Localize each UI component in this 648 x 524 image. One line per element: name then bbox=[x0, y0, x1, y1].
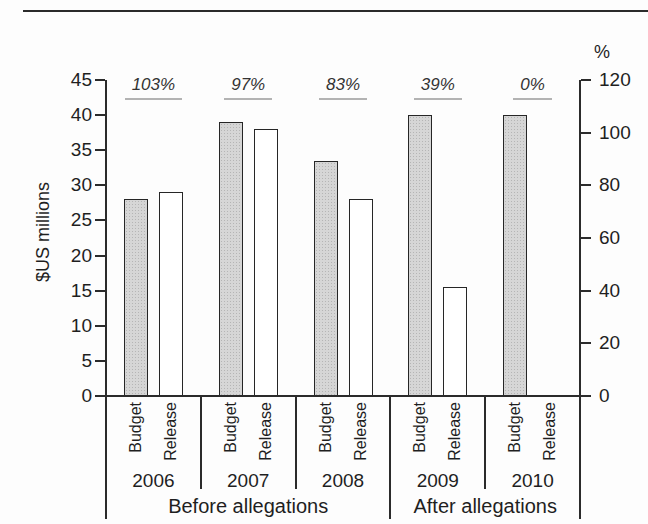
left-axis-line bbox=[105, 80, 107, 397]
bar-sublabel-budget: Budget bbox=[412, 402, 428, 453]
left-axis-tick bbox=[95, 255, 105, 257]
bar-sublabel-release: Release bbox=[258, 402, 274, 461]
bar-budget-2008 bbox=[314, 161, 338, 396]
left-axis-tick-label: 35 bbox=[48, 139, 92, 160]
bar-sublabel-release: Release bbox=[542, 402, 558, 461]
bar-sublabel-budget: Budget bbox=[223, 402, 239, 453]
year-label: 2007 bbox=[203, 470, 293, 492]
right-axis-tick-label: 0 bbox=[599, 385, 643, 406]
percent-annotation: 97% bbox=[198, 75, 298, 100]
percent-annotation: 39% bbox=[388, 75, 488, 100]
bar-sublabel-release: Release bbox=[353, 402, 369, 461]
left-axis-tick bbox=[95, 395, 105, 397]
percent-annotation-text: 97% bbox=[224, 75, 272, 100]
bar-budget-2007 bbox=[219, 122, 243, 396]
year-label: 2009 bbox=[393, 470, 483, 492]
bar-chart-figure: $US millions % 4540353025201510501201008… bbox=[0, 0, 648, 524]
left-axis-tick-label: 15 bbox=[48, 280, 92, 301]
chart-layer: 454035302520151050120100806040200103%Bud… bbox=[0, 0, 648, 524]
bar-sublabel-release: Release bbox=[447, 402, 463, 461]
bar-sublabel-budget: Budget bbox=[507, 402, 523, 453]
right-axis-tick bbox=[581, 290, 591, 292]
left-axis-tick bbox=[95, 325, 105, 327]
left-axis-tick-label: 10 bbox=[48, 315, 92, 336]
right-axis-tick-label: 40 bbox=[599, 280, 643, 301]
percent-annotation-text: 39% bbox=[414, 75, 462, 100]
left-axis-tick bbox=[95, 149, 105, 151]
group-band-label: Before allegations bbox=[128, 495, 368, 518]
left-axis-tick-label: 25 bbox=[48, 209, 92, 230]
left-axis-tick-label: 20 bbox=[48, 245, 92, 266]
left-axis-tick bbox=[95, 114, 105, 116]
percent-annotation-text: 103% bbox=[125, 75, 182, 100]
year-label: 2008 bbox=[298, 470, 388, 492]
right-axis-tick-label: 60 bbox=[599, 227, 643, 248]
left-axis-tick-label: 45 bbox=[48, 69, 92, 90]
right-axis-tick bbox=[581, 395, 591, 397]
bar-release-2008 bbox=[349, 199, 373, 396]
left-axis-tick bbox=[95, 219, 105, 221]
right-axis-tick-label: 120 bbox=[599, 69, 643, 90]
left-axis-tick bbox=[95, 360, 105, 362]
right-axis-tick bbox=[581, 237, 591, 239]
left-axis-tick-label: 0 bbox=[48, 385, 92, 406]
left-axis-tick bbox=[95, 290, 105, 292]
bar-sublabel-release: Release bbox=[163, 402, 179, 461]
right-axis-tick-label: 80 bbox=[599, 174, 643, 195]
bar-budget-2009 bbox=[408, 115, 432, 396]
group-divider bbox=[484, 396, 486, 489]
bar-budget-2010 bbox=[503, 115, 527, 396]
percent-annotation: 83% bbox=[293, 75, 393, 100]
bar-sublabel-budget: Budget bbox=[128, 402, 144, 453]
right-axis-tick-label: 100 bbox=[599, 122, 643, 143]
year-label: 2010 bbox=[488, 470, 578, 492]
bar-sublabel-budget: Budget bbox=[318, 402, 334, 453]
right-axis-tick bbox=[581, 184, 591, 186]
bar-release-2006 bbox=[159, 192, 183, 396]
percent-annotation-text: 83% bbox=[319, 75, 367, 100]
right-axis-tick-label: 20 bbox=[599, 332, 643, 353]
left-axis-tick-label: 30 bbox=[48, 174, 92, 195]
percent-annotation: 0% bbox=[483, 75, 583, 100]
left-axis-tick bbox=[95, 184, 105, 186]
group-divider bbox=[295, 396, 297, 489]
left-axis-tick-label: 5 bbox=[48, 350, 92, 371]
left-axis-tick-label: 40 bbox=[48, 104, 92, 125]
x-baseline bbox=[105, 395, 581, 397]
right-axis-tick bbox=[581, 132, 591, 134]
percent-annotation-text: 0% bbox=[513, 75, 552, 100]
bar-release-2009 bbox=[443, 287, 467, 396]
group-band-label: After allegations bbox=[365, 495, 605, 518]
year-label: 2006 bbox=[108, 470, 198, 492]
group-divider bbox=[200, 396, 202, 489]
right-axis-tick bbox=[581, 342, 591, 344]
group-divider bbox=[105, 396, 107, 519]
bar-release-2007 bbox=[254, 129, 278, 396]
bar-budget-2006 bbox=[124, 199, 148, 396]
percent-annotation: 103% bbox=[103, 75, 203, 100]
